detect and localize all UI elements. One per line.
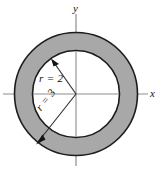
x-axis-label: x (150, 88, 155, 99)
annulus-diagram (0, 0, 164, 171)
annulus-figure: x y r = 2 r = 3 (0, 0, 164, 171)
y-axis-label: y (73, 3, 78, 14)
inner-radius-label: r = 2 (39, 73, 63, 84)
